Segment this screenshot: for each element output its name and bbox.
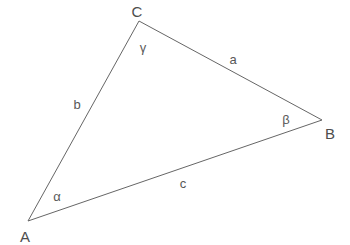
- side-label-c: c: [180, 177, 187, 190]
- angle-label-alpha: α: [53, 190, 61, 203]
- side-label-b: b: [73, 98, 80, 111]
- triangle-outline-path: [28, 21, 322, 221]
- angle-label-beta: β: [282, 113, 289, 126]
- vertex-label-c: C: [132, 4, 143, 19]
- triangle-shape: [0, 0, 350, 245]
- vertex-label-b: B: [325, 126, 335, 141]
- triangle-diagram: A B C a b c α β γ: [0, 0, 350, 245]
- vertex-label-a: A: [20, 229, 30, 244]
- angle-label-gamma: γ: [140, 41, 147, 54]
- side-label-a: a: [229, 53, 236, 66]
